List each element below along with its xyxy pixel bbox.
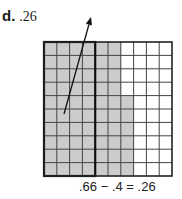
shaded-cell xyxy=(82,55,95,69)
shaded-cell xyxy=(82,149,95,163)
shaded-cell xyxy=(108,149,121,163)
shaded-cell xyxy=(121,122,134,136)
shaded-cell xyxy=(57,149,70,163)
shaded-cell xyxy=(70,109,83,123)
shaded-cell xyxy=(44,96,57,110)
shaded-cell xyxy=(70,149,83,163)
shaded-cell xyxy=(108,69,121,83)
shaded-cell xyxy=(121,109,134,123)
shaded-cell xyxy=(95,42,108,56)
shaded-cell xyxy=(121,163,134,177)
shaded-cell xyxy=(108,163,121,177)
shaded-cell xyxy=(57,109,70,123)
shaded-cell xyxy=(95,55,108,69)
shaded-cell xyxy=(44,163,57,177)
shaded-cell xyxy=(108,136,121,150)
shaded-cell xyxy=(108,122,121,136)
shaded-cell xyxy=(95,96,108,110)
shaded-cell xyxy=(82,82,95,96)
shaded-cell xyxy=(108,96,121,110)
shaded-cell xyxy=(70,163,83,177)
shaded-cell xyxy=(44,109,57,123)
shaded-cell xyxy=(70,55,83,69)
hundred-grid-diagram xyxy=(0,0,182,199)
shaded-cell xyxy=(82,96,95,110)
shaded-cell xyxy=(108,42,121,56)
shaded-cell xyxy=(95,122,108,136)
shaded-cell xyxy=(57,69,70,83)
shaded-cell xyxy=(108,82,121,96)
shaded-cell xyxy=(44,82,57,96)
shaded-cell xyxy=(108,109,121,123)
shaded-cell xyxy=(82,42,95,56)
shaded-cell xyxy=(44,69,57,83)
shaded-cell xyxy=(57,42,70,56)
shaded-cell xyxy=(57,122,70,136)
shaded-cell xyxy=(70,136,83,150)
shaded-cell xyxy=(121,136,134,150)
shaded-cell xyxy=(121,96,134,110)
shaded-cell xyxy=(95,149,108,163)
shaded-cell xyxy=(70,96,83,110)
shaded-cell xyxy=(82,109,95,123)
shaded-cell xyxy=(57,136,70,150)
shaded-cell xyxy=(108,55,121,69)
shaded-cell xyxy=(57,82,70,96)
equation-caption: .66 − .4 = .26 xyxy=(79,179,156,194)
shaded-cell xyxy=(44,136,57,150)
shaded-cell xyxy=(82,136,95,150)
shaded-cell xyxy=(82,69,95,83)
shaded-cell xyxy=(95,69,108,83)
shaded-cell xyxy=(121,149,134,163)
shaded-cell xyxy=(95,163,108,177)
shaded-cell xyxy=(44,42,57,56)
shaded-cell xyxy=(57,163,70,177)
shaded-cell xyxy=(82,163,95,177)
shaded-cell xyxy=(44,122,57,136)
shaded-cell xyxy=(44,55,57,69)
shaded-cell xyxy=(70,122,83,136)
shaded-cell xyxy=(57,55,70,69)
shaded-cell xyxy=(95,82,108,96)
shaded-cell xyxy=(95,136,108,150)
shaded-cell xyxy=(82,122,95,136)
shaded-cell xyxy=(95,109,108,123)
shaded-cell xyxy=(44,149,57,163)
